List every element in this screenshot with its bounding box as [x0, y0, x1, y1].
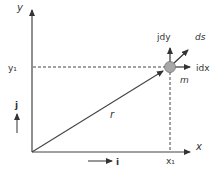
x-axis-label: x	[195, 141, 202, 152]
mass-particle	[165, 62, 176, 73]
idx-label: idx	[196, 63, 210, 73]
mass-label: m	[180, 75, 189, 85]
position-vector-r	[32, 71, 163, 152]
unit-vector-i-label: i	[116, 157, 119, 167]
unit-vector-j-label: j	[14, 100, 18, 110]
y-axis-label: y	[16, 2, 24, 13]
position-vector-diagram: y x y₁ x₁ r jdy ds idx m j i	[0, 0, 223, 175]
x1-label: x₁	[166, 156, 175, 166]
jdy-label: jdy	[156, 32, 171, 42]
ds-arrow	[173, 50, 188, 64]
ds-label: ds	[195, 32, 206, 42]
y1-label: y₁	[8, 63, 17, 73]
position-vector-r-label: r	[110, 109, 115, 120]
